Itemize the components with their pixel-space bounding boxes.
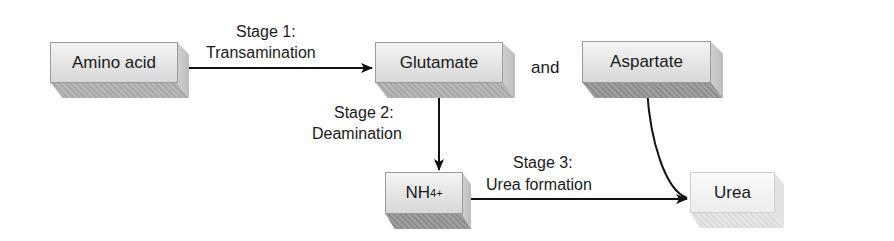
arrow-aspartate-to-urea bbox=[647, 89, 687, 198]
node-amino-acid-label: Amino acid bbox=[50, 42, 178, 83]
stage3-title: Stage 3: bbox=[513, 153, 573, 172]
stage1-title: Stage 1: bbox=[236, 22, 296, 41]
and-label: and bbox=[531, 58, 559, 77]
node-glutamate-label: Glutamate bbox=[375, 42, 503, 83]
node-urea-label: Urea bbox=[690, 172, 775, 213]
stage2-name: Deamination bbox=[312, 124, 402, 143]
stage2-title: Stage 2: bbox=[334, 103, 394, 122]
node-aspartate-label: Aspartate bbox=[582, 41, 711, 83]
stage3-name: Urea formation bbox=[486, 175, 592, 194]
stage1-name: Transamination bbox=[206, 43, 316, 62]
node-ammonium-label: NH4+ bbox=[385, 172, 463, 214]
